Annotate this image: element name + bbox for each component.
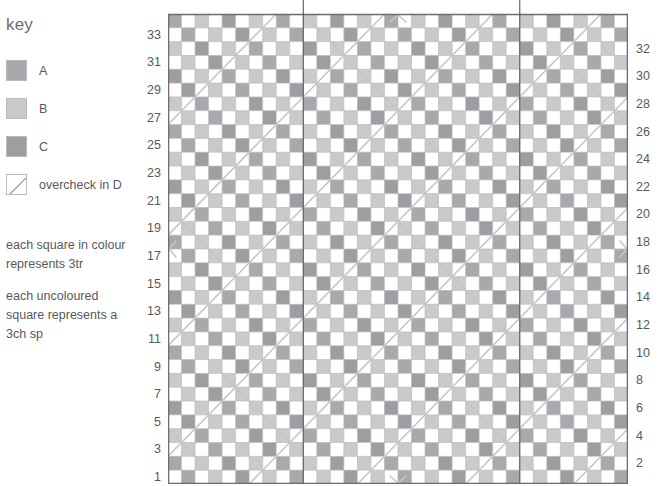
row-label-24: 24 (636, 153, 650, 166)
pattern-chart: 3331292725232119171513119753132302826242… (168, 14, 628, 484)
key-label-b: B (39, 102, 47, 116)
chart-grid (168, 0, 628, 484)
row-label-29: 29 (147, 84, 161, 97)
row-label-15: 15 (147, 278, 161, 291)
key-entry-overcheck: overcheck in D (6, 174, 122, 195)
row-label-2: 2 (636, 457, 643, 470)
key-label-a: A (39, 64, 47, 78)
row-label-27: 27 (147, 112, 161, 125)
row-label-21: 21 (147, 195, 161, 208)
row-label-33: 33 (147, 29, 161, 42)
diagonal-line-icon (6, 174, 27, 195)
color-swatch-a (6, 60, 27, 81)
row-label-7: 7 (154, 388, 161, 401)
key-label-overcheck: overcheck in D (39, 178, 122, 192)
row-label-6: 6 (636, 402, 643, 415)
row-label-30: 30 (636, 70, 650, 83)
key-entry-a: A (6, 60, 47, 81)
row-label-4: 4 (636, 430, 643, 443)
row-label-5: 5 (154, 416, 161, 429)
note-uncoloured-square: each uncoloured square represents a 3ch … (6, 287, 141, 344)
row-label-10: 10 (636, 347, 650, 360)
row-label-20: 20 (636, 208, 650, 221)
note-line: represents 3tr (6, 255, 141, 274)
row-label-17: 17 (147, 250, 161, 263)
row-label-8: 8 (636, 374, 643, 387)
note-line: square represents a (6, 306, 141, 325)
key-entry-b: B (6, 98, 47, 119)
row-label-26: 26 (636, 126, 650, 139)
color-swatch-c (6, 136, 27, 157)
row-label-9: 9 (154, 361, 161, 374)
key-entry-c: C (6, 136, 48, 157)
note-line: 3ch sp (6, 325, 141, 344)
row-label-28: 28 (636, 98, 650, 111)
key-label-c: C (39, 140, 48, 154)
row-label-19: 19 (147, 222, 161, 235)
row-label-3: 3 (154, 443, 161, 456)
row-label-25: 25 (147, 139, 161, 152)
row-label-23: 23 (147, 167, 161, 180)
color-swatch-b (6, 98, 27, 119)
row-label-11: 11 (148, 333, 161, 346)
row-label-13: 13 (147, 305, 161, 318)
note-coloured-square: each square in colour represents 3tr (6, 236, 141, 274)
diagonal-swatch-d (6, 174, 27, 195)
key-panel: key A B C overcheck in D each square in … (0, 0, 150, 486)
row-label-31: 31 (147, 56, 161, 69)
row-label-22: 22 (636, 181, 650, 194)
note-line: each uncoloured (6, 287, 141, 306)
row-label-12: 12 (636, 319, 650, 332)
row-label-1: 1 (154, 471, 161, 484)
note-line: each square in colour (6, 236, 141, 255)
row-label-32: 32 (636, 43, 650, 56)
row-label-18: 18 (636, 236, 650, 249)
row-label-14: 14 (636, 291, 650, 304)
key-title: key (6, 15, 33, 35)
row-label-16: 16 (636, 264, 650, 277)
